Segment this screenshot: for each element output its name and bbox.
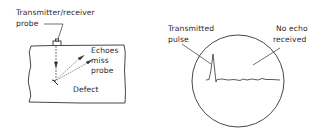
beam-arrow-icon	[55, 46, 58, 80]
pulse-trace	[206, 54, 280, 82]
echo-label-line2: miss	[91, 56, 119, 66]
no-echo-label-line1: No echo	[273, 24, 308, 35]
pulse-label-line2: pulse	[168, 35, 214, 46]
probe-label-line1: Transmitter/receiver	[16, 8, 95, 19]
defect-icon	[52, 80, 58, 85]
echo-arrows-icon	[56, 56, 92, 81]
no-echo-label: No echo received	[273, 24, 308, 45]
no-echo-label-line2: received	[273, 35, 308, 46]
no-echo-leader-line	[253, 48, 280, 65]
probe-label-line2: probe	[16, 19, 95, 30]
probe-label: Transmitter/receiver probe	[16, 8, 95, 29]
pulse-label: Transmitted pulse	[168, 24, 214, 45]
probe-icon	[53, 39, 61, 46]
pulse-label-line1: Transmitted	[168, 24, 214, 35]
echo-label: Echoes miss probe	[91, 46, 119, 76]
echo-label-line1: Echoes	[91, 46, 119, 56]
oscilloscope-screen	[192, 35, 284, 127]
echo-label-line3: probe	[91, 66, 119, 76]
defect-label: Defect	[73, 85, 99, 96]
